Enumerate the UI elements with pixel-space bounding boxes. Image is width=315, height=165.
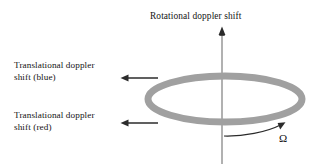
- rotation-arrowhead: [278, 122, 286, 129]
- rotation-curve: [224, 125, 282, 137]
- doppler-shift-diagram: Rotational doppler shift Translational d…: [0, 0, 315, 165]
- translational-red-label: Translational doppler shift (red): [14, 110, 118, 134]
- axis-title-label: Rotational doppler shift: [150, 10, 300, 22]
- translational-blue-label: Translational doppler shift (blue): [14, 60, 118, 84]
- rotational-axis-arrowhead-base: [219, 34, 224, 36]
- rotational-axis-arrowhead: [219, 27, 226, 36]
- translational-arrow-blue-head: [121, 75, 129, 82]
- translational-arrow-red-head: [121, 120, 129, 127]
- rotating-ring: [148, 76, 302, 122]
- omega-symbol-label: Ω: [279, 131, 287, 145]
